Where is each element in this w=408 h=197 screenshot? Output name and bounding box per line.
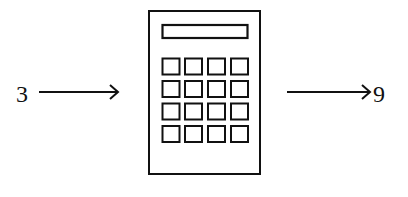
calculator-display bbox=[163, 25, 248, 38]
output-value: 9 bbox=[373, 82, 385, 106]
output-arrow bbox=[287, 85, 370, 99]
input-arrow bbox=[39, 85, 118, 99]
calculator-keypad bbox=[163, 59, 249, 143]
calculator-body bbox=[149, 11, 260, 174]
calculator-icon bbox=[149, 11, 260, 174]
diagram-canvas bbox=[0, 0, 408, 197]
